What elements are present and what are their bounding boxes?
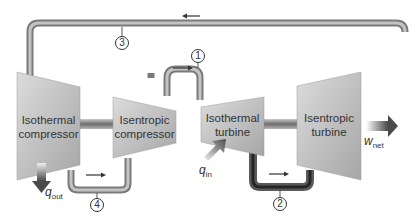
shaft-2 (262, 119, 300, 129)
state-1-label: 1 (192, 49, 204, 63)
isentropic-turbine-label: Isentropic turbine (297, 111, 361, 139)
isentropic-compressor-label: Isentropic compressor (113, 113, 176, 141)
heat-in-label: qin (199, 163, 212, 179)
isothermal-turbine-label: Isothermal turbine (201, 111, 264, 139)
state-4-label: 4 (91, 198, 103, 212)
flow-arrow-top-left-icon (182, 14, 200, 19)
flow-arrow-state2-icon (269, 172, 289, 177)
work-net-label: wnet (364, 134, 384, 150)
state-3-label: 3 (116, 36, 128, 50)
heat-out-label: qout (45, 185, 63, 201)
flow-arrow-state4-icon (86, 173, 106, 178)
shaft-1 (80, 119, 116, 129)
state-2-label: 2 (274, 197, 286, 211)
ericsson-cycle-diagram: 3 1 4 2 Isothermal compressor Isentropic… (0, 0, 413, 223)
isothermal-compressor-label: Isothermal compressor (17, 113, 80, 141)
pipe-state-3 (30, 23, 405, 78)
